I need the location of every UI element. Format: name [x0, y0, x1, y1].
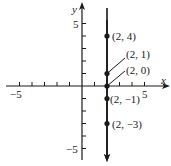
- y-tick-label-max: 5: [73, 18, 79, 30]
- point-label-2-1: (2, 1): [126, 48, 150, 61]
- leader-line-2-0: [107, 71, 125, 86]
- y-axis-label: y: [71, 3, 77, 15]
- point-2-neg3: [104, 121, 109, 126]
- point-2-1: [104, 71, 109, 76]
- x-axis-label: x: [160, 74, 166, 86]
- y-tick-label-min: −5: [66, 143, 78, 155]
- point-2-neg1: [104, 96, 109, 101]
- point-2-0: [104, 83, 109, 88]
- point-label-2-neg1: (2, −1): [110, 93, 140, 106]
- point-label-2-neg3: (2, −3): [112, 118, 142, 131]
- x-tick-label-min: −5: [10, 88, 22, 100]
- y-axis: [82, 6, 86, 160]
- point-2-4: [104, 33, 109, 38]
- x-tick-label-max: 5: [142, 88, 148, 100]
- coordinate-plane: x y −5 5 5 −5 (2, 4) (2, 1) (2, 0) (2, −…: [0, 0, 171, 166]
- leader-line-2-1: [107, 58, 125, 74]
- x-axis: [6, 82, 166, 86]
- point-label-2-0: (2, 0): [126, 64, 150, 77]
- point-label-2-4: (2, 4): [112, 30, 136, 43]
